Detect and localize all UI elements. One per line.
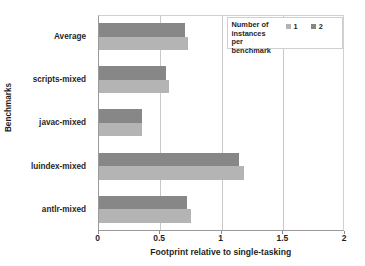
bar-luindex-mixed-series-2 <box>99 153 240 167</box>
bar-average-series-2 <box>99 23 185 37</box>
legend-swatch-1-icon <box>286 24 292 30</box>
bar-antlr-mixed-series-1 <box>99 209 191 223</box>
bar-javac-mixed-series-1 <box>99 123 142 137</box>
x-tick-label-0: 0 <box>95 233 100 243</box>
y-label-javac-mixed: javac-mixed <box>0 101 92 144</box>
legend-item-1: 1 <box>286 22 298 31</box>
bar-group-luindex-mixed <box>99 146 344 189</box>
bar-scripts-mixed-series-1 <box>99 80 169 94</box>
bar-javac-mixed-series-2 <box>99 109 142 123</box>
y-label-scripts-mixed: scripts-mixed <box>0 58 92 101</box>
legend-entries: 1 2 <box>286 21 323 31</box>
legend-title: Number of instances per benchmark <box>232 21 284 55</box>
legend-item-2: 2 <box>311 22 323 31</box>
bar-antlr-mixed-series-2 <box>99 196 188 210</box>
chart-legend: Number of instances per benchmark 1 2 <box>227 17 343 49</box>
y-label-antlr-mixed: antlr-mixed <box>0 188 92 231</box>
plot-area: Number of instances per benchmark 1 2 <box>98 15 345 231</box>
bar-group-scripts-mixed <box>99 59 344 102</box>
bar-group-javac-mixed <box>99 102 344 145</box>
y-label-luindex-mixed: luindex-mixed <box>0 145 92 188</box>
bar-average-series-1 <box>99 37 189 51</box>
legend-title-line-3: per benchmark <box>232 38 284 55</box>
x-tick-label-0.5: 0.5 <box>153 233 165 243</box>
bar-chart: Number of instances per benchmark 1 2 Av… <box>0 0 365 266</box>
bar-scripts-mixed-series-2 <box>99 66 167 80</box>
bar-luindex-mixed-series-1 <box>99 166 244 180</box>
y-axis-title: Benchmarks <box>4 68 13 148</box>
x-tick-label-1: 1 <box>218 233 223 243</box>
x-tick-label-1.5: 1.5 <box>276 233 288 243</box>
y-label-average: Average <box>0 15 92 58</box>
bar-group-antlr-mixed <box>99 189 344 232</box>
legend-label-1: 1 <box>294 22 298 31</box>
x-tick-labels: 0 0.5 1 1.5 2 <box>0 233 365 247</box>
legend-swatch-2-icon <box>311 24 317 30</box>
x-axis-title: Footprint relative to single-tasking <box>98 247 345 257</box>
legend-label-2: 2 <box>319 22 323 31</box>
x-tick-label-2: 2 <box>342 233 347 243</box>
